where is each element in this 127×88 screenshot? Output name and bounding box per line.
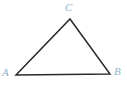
triangle-figure: A B C <box>0 0 127 88</box>
triangle-outline <box>16 19 110 75</box>
vertex-label-b: B <box>114 66 121 77</box>
vertex-label-a: A <box>2 67 9 78</box>
vertex-label-c: C <box>65 2 72 13</box>
triangle-diagram-svg <box>0 0 127 88</box>
